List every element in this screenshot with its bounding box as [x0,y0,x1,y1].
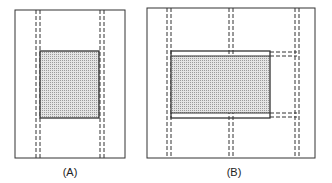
panel-a-shaded-area [40,51,99,118]
panel-b-shaded-area [171,56,270,113]
panel-a [15,10,125,158]
panel-b [147,8,315,158]
panel-b-label: (B) [227,166,242,178]
panel-a-label: (A) [63,166,78,178]
diagram [0,0,332,183]
